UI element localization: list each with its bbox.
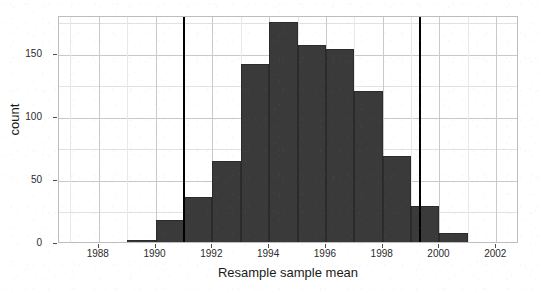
y-tick-label: 100 — [25, 112, 42, 122]
gridline-v-major — [496, 17, 497, 242]
gridline-v-major — [99, 17, 100, 242]
x-tick-mark — [211, 244, 212, 248]
x-tick-mark — [98, 244, 99, 248]
upper-bound-line — [419, 17, 421, 242]
histogram-bar — [241, 64, 269, 243]
x-tick-label: 1994 — [248, 249, 288, 259]
x-tick-mark — [325, 244, 326, 248]
histogram-bar — [212, 161, 240, 243]
plot-panel — [58, 16, 518, 243]
histogram-bar — [156, 220, 184, 243]
x-tick-mark — [155, 244, 156, 248]
y-tick-label: 50 — [31, 175, 42, 185]
y-tick-mark — [53, 243, 57, 244]
x-tick-label: 1996 — [305, 249, 345, 259]
x-tick-mark — [495, 244, 496, 248]
x-axis-title: Resample sample mean — [58, 265, 518, 280]
histogram-bar — [127, 240, 155, 243]
histogram-bar — [439, 233, 467, 243]
gridline-v-minor — [468, 17, 469, 242]
x-tick-mark — [382, 244, 383, 248]
x-tick-label: 1988 — [78, 249, 118, 259]
y-tick-label: 150 — [25, 49, 42, 59]
x-tick-mark — [438, 244, 439, 248]
gridline-v-minor — [127, 17, 128, 242]
lower-bound-line — [183, 17, 185, 242]
histogram-bar — [298, 45, 326, 243]
y-tick-label: 0 — [36, 238, 42, 248]
y-tick-mark — [53, 54, 57, 55]
y-tick-mark — [53, 180, 57, 181]
histogram-bar — [354, 91, 382, 243]
gridline-v-minor — [70, 17, 71, 242]
histogram-bar — [269, 22, 297, 243]
histogram-bar — [326, 49, 354, 243]
x-tick-mark — [268, 244, 269, 248]
histogram-figure: count 050100150 198819901992199419961998… — [0, 0, 541, 293]
y-axis-ticks: 050100150 — [0, 0, 54, 293]
x-tick-label: 2000 — [418, 249, 458, 259]
y-tick-mark — [53, 117, 57, 118]
gridline-v-major — [156, 17, 157, 242]
x-tick-label: 2002 — [475, 249, 515, 259]
x-tick-label: 1998 — [362, 249, 402, 259]
x-tick-label: 1992 — [191, 249, 231, 259]
histogram-bar — [383, 156, 411, 243]
histogram-bar — [411, 206, 439, 243]
histogram-bar — [184, 197, 212, 243]
x-tick-label: 1990 — [135, 249, 175, 259]
